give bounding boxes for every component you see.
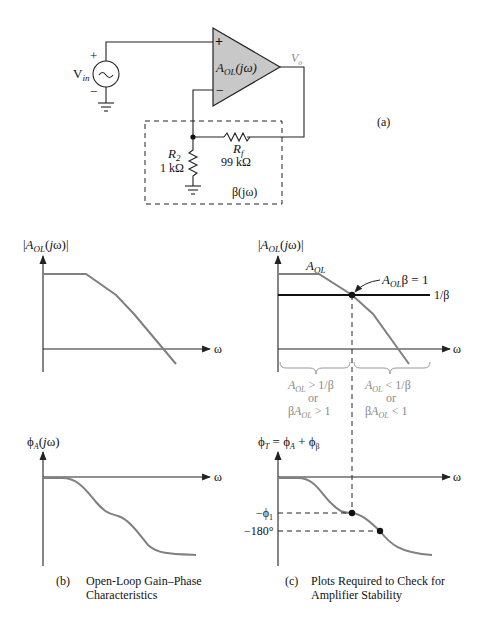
caption-b-tag: (b)	[56, 574, 70, 588]
caption-b-line1: Open-Loop Gain–Phase	[86, 574, 202, 588]
region-left-line3: βAOL > 1	[288, 404, 330, 420]
deg180-point	[377, 528, 383, 534]
gain-ylabel-c: |AOL(jω)|	[258, 237, 304, 254]
phi1-label: −ϕ1	[256, 506, 273, 522]
r2-value: 1 kΩ	[160, 161, 184, 175]
circuit-label: (a)	[377, 115, 390, 129]
rf-value: 99 kΩ	[221, 155, 251, 169]
deg180-label: −180°	[244, 524, 274, 538]
phase-curve-b	[43, 478, 196, 555]
x-label-c-phase: ω	[453, 470, 461, 484]
caption-c-tag: (c)	[285, 574, 298, 588]
crossing-label: AOLβ = 1	[381, 272, 428, 289]
source-minus: −	[90, 84, 97, 99]
resistor-r2-icon	[189, 137, 197, 186]
brace-right	[354, 362, 430, 374]
resistor-rf-icon	[224, 133, 250, 141]
diagram-canvas: + − Vin + − AOL(jω) Vo R2 1 kΩ Rf 99 k	[0, 0, 484, 625]
x-label-c-gain: ω	[453, 342, 461, 356]
caption-b-line2: Characteristics	[86, 588, 158, 602]
region-right-line3: βAOL < 1	[365, 404, 407, 420]
opamp-minus: −	[216, 83, 224, 98]
output-label: Vo	[291, 51, 302, 67]
aol-label: AOL	[305, 258, 325, 275]
phase-curve-c	[278, 478, 432, 555]
phase-ylabel-b: ϕA(jω)	[27, 434, 60, 451]
ground-icon	[98, 103, 114, 111]
panel-c-gain-plot: |AOL(jω)| ω 1/β AOL AOLβ = 1 AOL > 1/β o…	[258, 237, 461, 513]
region-right-line2: or	[386, 391, 396, 405]
opamp-label: AOL(jω)	[215, 60, 257, 77]
panel-b-gain-plot: |AOL(jω)| ω	[23, 237, 222, 372]
source-label: Vin	[73, 66, 90, 83]
caption-c-line1: Plots Required to Check for	[311, 574, 445, 588]
brace-left	[280, 362, 350, 374]
gain-curve-b	[43, 274, 176, 364]
phi1-point	[349, 510, 355, 516]
x-label-b-gain: ω	[214, 342, 222, 356]
crossover-arrow-icon	[355, 280, 380, 292]
opamp-plus: +	[215, 34, 223, 49]
region-left-line2: or	[308, 391, 318, 405]
x-label-b-phase: ω	[214, 470, 222, 484]
panel-b-phase-plot: ϕA(jω) ω (b) Open-Loop Gain–Phase Charac…	[27, 434, 222, 602]
caption-c-line2: Amplifier Stability	[311, 588, 402, 602]
ground-icon	[185, 186, 201, 194]
gain-ylabel-b: |AOL(jω)|	[23, 237, 69, 254]
feedback-label: β(jω)	[232, 185, 257, 199]
phase-ylabel-c: ϕT = ϕA + ϕβ	[258, 434, 320, 451]
inv-beta-label: 1/β	[434, 288, 449, 302]
source-plus: +	[90, 48, 97, 63]
circuit-schematic: + − Vin + − AOL(jω) Vo R2 1 kΩ Rf 99 k	[73, 28, 390, 204]
